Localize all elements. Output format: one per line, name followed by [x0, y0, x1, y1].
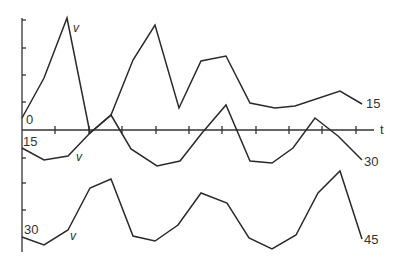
- t-axis-label: t: [380, 122, 384, 137]
- diagram-canvas: t 0 15 v 15 30 v 30 45 v: [0, 0, 402, 262]
- trace-1-start-label: 15: [23, 134, 37, 149]
- trace-2-v-marker: v: [70, 229, 77, 243]
- trace-2-start-label: 30: [24, 222, 38, 237]
- trace-2-end-label: 45: [364, 232, 378, 247]
- trace-15-30: [22, 105, 362, 166]
- trace-0-end-label: 15: [366, 96, 380, 111]
- trace-1-v-marker: v: [76, 150, 83, 164]
- trace-1-end-label: 30: [364, 154, 378, 169]
- trace-0-v-marker: v: [73, 21, 80, 35]
- trace-0-start-label: 0: [26, 112, 33, 127]
- trace-0-15: [22, 18, 362, 133]
